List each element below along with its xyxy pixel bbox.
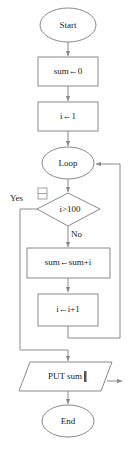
- connector-condition-yes-to-output: [20, 209, 68, 361]
- node-increment-label: i←i+1: [56, 304, 80, 314]
- node-end-label: End: [61, 416, 76, 426]
- node-init-sum-label: sum←0: [54, 66, 83, 76]
- edge-label-no: No: [71, 229, 82, 239]
- edge-label-yes: Yes: [10, 193, 24, 203]
- node-loop-label: Loop: [59, 158, 78, 168]
- node-accumulate-label: sum←sum+i: [45, 257, 92, 267]
- flowchart-diagram: Start sum←0 i←1 Loop i>100 Yes No sum←su…: [0, 0, 131, 450]
- missing-glyph-box: [38, 188, 47, 199]
- node-start-label: Start: [60, 20, 77, 30]
- text-caret-glyph: [84, 371, 87, 382]
- node-init-i-label: i←1: [60, 111, 76, 121]
- node-condition-label: i>100: [59, 204, 81, 214]
- flowchart-canvas: Start sum←0 i←1 Loop i>100 Yes No sum←su…: [0, 0, 131, 450]
- node-output-label: PUT sum: [48, 371, 82, 381]
